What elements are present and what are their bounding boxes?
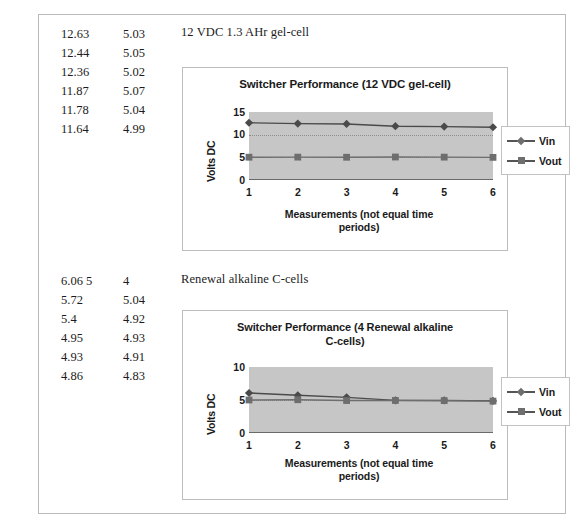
cell-vout: 4.83 xyxy=(123,367,181,386)
cell-vout: 4.92 xyxy=(123,310,181,329)
cell-vin: 4.93 xyxy=(61,348,123,367)
x-axis-title-line2: periods) xyxy=(223,221,495,234)
chart-alkaline-c-cells: Switcher Performance (4 Renewal alkaline… xyxy=(182,310,508,500)
cell-vout: 4.93 xyxy=(123,329,181,348)
cell-vout: 5.02 xyxy=(123,63,181,82)
caption-alkaline: Renewal alkaline C-cells xyxy=(181,272,308,287)
x-tick-label: 5 xyxy=(441,439,447,451)
table-row: 11.78 5.04 xyxy=(61,101,181,120)
y-tick-label: 5 xyxy=(239,395,245,405)
x-tick-label: 3 xyxy=(344,439,350,451)
x-tick-label: 2 xyxy=(295,439,301,451)
cell-vin: 4.86 xyxy=(61,367,123,386)
square-marker-icon xyxy=(507,156,535,165)
y-tick-label: 0 xyxy=(239,428,245,438)
y-tick-label: 0 xyxy=(239,175,245,185)
plot-wrapper: Volts DC 15 10 5 0 1 2 3 4 5 xyxy=(183,104,509,252)
table-row: 5.72 5.04 xyxy=(61,291,181,310)
plot-area xyxy=(249,112,493,180)
square-marker-icon xyxy=(507,407,535,416)
plot-area xyxy=(249,367,493,433)
caption-gel-cell: 12 VDC 1.3 AHr gel-cell xyxy=(181,25,309,40)
table-row: 11.87 5.07 xyxy=(61,82,181,101)
y-axis-ticks: 10 5 0 xyxy=(219,359,245,439)
table-row: 12.44 5.05 xyxy=(61,44,181,63)
x-tick-label: 1 xyxy=(246,439,252,451)
data-table-alkaline: 6.06 5 4 5.72 5.04 5.4 4.92 4.95 4.93 4.… xyxy=(61,272,181,386)
legend-label: Vout xyxy=(539,406,562,418)
cell-vin: 12.36 xyxy=(61,63,123,82)
y-tick-label: 10 xyxy=(233,129,245,139)
cell-vout: 5.03 xyxy=(123,25,181,44)
table-row: 4.95 4.93 xyxy=(61,329,181,348)
x-axis-title-line1: Measurements (not equal time xyxy=(223,457,495,470)
cell-vout: 4 xyxy=(123,272,181,291)
y-axis-title: Volts DC xyxy=(205,369,217,435)
x-tick-label: 6 xyxy=(490,186,496,198)
x-tick-label: 4 xyxy=(392,439,398,451)
legend-label: Vout xyxy=(539,155,562,167)
cell-vout: 5.05 xyxy=(123,44,181,63)
x-tick-label: 3 xyxy=(344,186,350,198)
chart-gel-cell: Switcher Performance (12 VDC gel-cell) V… xyxy=(182,67,508,251)
table-row: 6.06 5 4 xyxy=(61,272,181,291)
document-page-frame: 12.63 5.03 12.44 5.05 12.36 5.02 11.87 5… xyxy=(38,14,566,514)
chart-title: Switcher Performance (4 Renewal alkaline… xyxy=(191,320,499,348)
cell-vin: 12.63 xyxy=(61,25,123,44)
table-row: 12.63 5.03 xyxy=(61,25,181,44)
cell-vin: 5.72 xyxy=(61,291,123,310)
plot-wrapper: Volts DC 10 5 0 1 2 3 4 5 6 xyxy=(183,359,509,501)
y-axis-ticks: 15 10 5 0 xyxy=(219,104,245,184)
chart-title-line1: Switcher Performance (4 Renewal alkaline xyxy=(191,320,499,334)
diamond-marker-icon xyxy=(507,387,535,396)
legend-item-vout: Vout xyxy=(507,403,562,420)
cell-vin: 6.06 5 xyxy=(61,272,123,291)
cell-vout: 5.04 xyxy=(123,291,181,310)
table-row: 4.86 4.83 xyxy=(61,367,181,386)
legend-item-vin: Vin xyxy=(507,132,562,149)
cell-vout: 4.99 xyxy=(123,120,181,139)
legend-label: Vin xyxy=(539,386,555,398)
chart-title: Switcher Performance (12 VDC gel-cell) xyxy=(191,77,499,91)
table-row: 4.93 4.91 xyxy=(61,348,181,367)
diamond-marker-icon xyxy=(507,136,535,145)
x-tick-label: 5 xyxy=(441,186,447,198)
x-tick-label: 1 xyxy=(246,186,252,198)
cell-vout: 4.91 xyxy=(123,348,181,367)
x-tick-label: 4 xyxy=(392,186,398,198)
table-row: 11.64 4.99 xyxy=(61,120,181,139)
cell-vout: 5.04 xyxy=(123,101,181,120)
cell-vin: 4.95 xyxy=(61,329,123,348)
legend-item-vout: Vout xyxy=(507,152,562,169)
x-axis-title-line2: periods) xyxy=(223,470,495,483)
y-tick-label: 15 xyxy=(233,107,245,117)
table-row: 12.36 5.02 xyxy=(61,63,181,82)
cell-vin: 5.4 xyxy=(61,310,123,329)
legend-label: Vin xyxy=(539,135,555,147)
series-plot xyxy=(249,367,493,433)
chart-legend: Vin Vout xyxy=(501,126,570,175)
x-axis-title-line1: Measurements (not equal time xyxy=(223,208,495,221)
y-tick-label: 5 xyxy=(239,152,245,162)
y-axis-title: Volts DC xyxy=(205,116,217,182)
data-table-gel-cell: 12.63 5.03 12.44 5.05 12.36 5.02 11.87 5… xyxy=(61,25,181,139)
series-plot xyxy=(249,112,493,180)
scan-artifact-top-line: · · · xyxy=(0,0,579,8)
cell-vout: 5.07 xyxy=(123,82,181,101)
table-row: 5.4 4.92 xyxy=(61,310,181,329)
cell-vin: 11.64 xyxy=(61,120,123,139)
y-tick-label: 10 xyxy=(233,362,245,372)
cell-vin: 12.44 xyxy=(61,44,123,63)
x-tick-label: 2 xyxy=(295,186,301,198)
chart-title-line2: C-cells) xyxy=(191,334,499,348)
x-tick-label: 6 xyxy=(490,439,496,451)
cell-vin: 11.78 xyxy=(61,101,123,120)
chart-legend: Vin Vout xyxy=(501,377,570,426)
x-axis-title: Measurements (not equal time periods) xyxy=(223,457,495,483)
x-axis-title: Measurements (not equal time periods) xyxy=(223,208,495,234)
legend-item-vin: Vin xyxy=(507,383,562,400)
cell-vin: 11.87 xyxy=(61,82,123,101)
